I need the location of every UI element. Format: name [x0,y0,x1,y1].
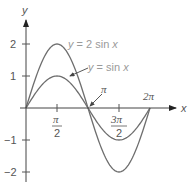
y-tick-neg2: −2 [4,166,17,178]
y-tick-2: 2 [10,38,16,50]
label-2-sin-x: y = 2 sin x [67,38,118,50]
x-label-pi: π [101,83,107,95]
sin-label-arrow [70,68,88,76]
x-label-2pi: 2π [143,90,155,102]
x-tick-3-half-pi-den: 2 [116,127,122,139]
x-tick-half-pi-num: π [53,113,59,125]
label-sin-x: y = sin x [87,61,129,73]
x-tick-3-half-pi-num: 3π [110,113,123,125]
y-tick-neg1: −1 [4,134,17,146]
y-axis-label: y [21,4,29,16]
x-tick-half-pi-den: 2 [54,127,60,139]
sine-chart: x y 2 1 −1 −2 π 2 3π 2 2π π y = 2 sin x … [0,0,192,192]
y-tick-1: 1 [10,70,16,82]
pi-arrow [90,94,102,106]
x-axis-label: x [180,102,187,114]
